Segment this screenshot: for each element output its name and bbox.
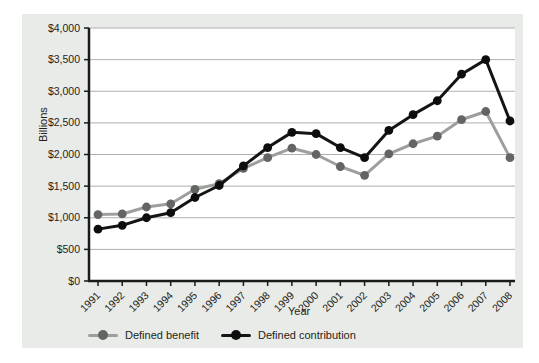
x-axis-title: Year [288, 306, 310, 317]
defined-benefit-point-1999 [287, 144, 296, 153]
legend-label-defined-benefit: Defined benefit [125, 329, 199, 341]
defined-benefit-point-1993 [142, 203, 151, 212]
x-tick-label: 2005 [417, 289, 442, 314]
x-tick-label: 2003 [368, 289, 393, 314]
y-tick-label: $3,000 [48, 85, 80, 97]
x-tick-label: 2008 [489, 289, 514, 314]
y-axis-title: Billions [38, 107, 49, 142]
x-tick-label: 1998 [247, 289, 272, 314]
x-tick-label: 1992 [102, 289, 127, 314]
y-tick-label: $500 [57, 243, 81, 255]
x-tick-label: 1994 [150, 289, 175, 314]
defined-contribution-point-2003 [384, 126, 393, 135]
defined-contribution-point-2000 [312, 129, 321, 138]
defined-benefit-point-2002 [360, 171, 369, 180]
defined-benefit-marker-icon [88, 330, 118, 340]
x-tick-label: 1995 [174, 289, 199, 314]
defined-benefit-point-1995 [191, 185, 200, 194]
defined-contribution-point-2004 [409, 110, 418, 119]
y-tick-label: $1,500 [48, 180, 80, 192]
defined-benefit-point-1998 [263, 153, 272, 162]
defined-benefit-point-1991 [94, 210, 103, 219]
defined-contribution-point-2002 [360, 153, 369, 162]
x-tick-label: 1996 [199, 289, 224, 314]
x-tick-label: 2002 [344, 289, 369, 314]
x-tick-label: 1997 [223, 289, 248, 314]
defined-contribution-point-2008 [506, 117, 515, 126]
legend: Defined benefit Defined contribution [88, 329, 356, 341]
defined-contribution-point-2006 [457, 70, 466, 79]
x-tick-label: 2004 [392, 289, 417, 314]
defined-contribution-point-1993 [142, 213, 151, 222]
defined-benefit-point-2001 [336, 162, 345, 171]
line-chart: $0$500$1,000$1,500$2,000$2,500$3,000$3,5… [0, 0, 539, 363]
defined-contribution-point-2001 [336, 143, 345, 152]
legend-label-defined-contribution: Defined contribution [258, 329, 356, 341]
x-tick-label: 1991 [77, 289, 102, 314]
defined-contribution-point-1996 [215, 181, 224, 190]
defined-benefit-point-2008 [506, 153, 515, 162]
y-tick-label: $2,500 [48, 116, 80, 128]
y-tick-label: $4,000 [48, 22, 80, 34]
defined-benefit-point-2007 [481, 107, 490, 116]
defined-contribution-point-1998 [263, 143, 272, 152]
defined-contribution-point-1995 [191, 193, 200, 202]
defined-contribution-point-2007 [481, 55, 490, 64]
defined-contribution-point-2005 [433, 96, 442, 105]
y-tick-label: $2,000 [48, 148, 80, 160]
defined-benefit-point-2005 [433, 132, 442, 141]
defined-benefit-point-2004 [409, 139, 418, 148]
defined-contribution-point-1994 [166, 208, 175, 217]
defined-contribution-point-1999 [287, 128, 296, 137]
defined-benefit-point-1994 [166, 199, 175, 208]
x-tick-label: 1993 [126, 289, 151, 314]
defined-contribution-point-1997 [239, 161, 248, 170]
defined-benefit-point-2006 [457, 115, 466, 124]
defined-contribution-point-1991 [94, 225, 103, 234]
y-tick-label: $3,500 [48, 53, 80, 65]
legend-item-defined-contribution: Defined contribution [221, 329, 356, 341]
x-tick-label: 2007 [465, 289, 490, 314]
x-tick-label: 2006 [441, 289, 466, 314]
defined-contribution-point-1992 [118, 221, 127, 230]
x-tick-label: 2001 [320, 289, 345, 314]
y-tick-label: $1,000 [48, 211, 80, 223]
y-tick-label: $0 [68, 275, 80, 287]
defined-benefit-point-2000 [312, 150, 321, 159]
defined-benefit-point-2003 [384, 149, 393, 158]
defined-contribution-marker-icon [221, 330, 251, 340]
legend-item-defined-benefit: Defined benefit [88, 329, 199, 341]
defined-benefit-point-1992 [118, 210, 127, 219]
